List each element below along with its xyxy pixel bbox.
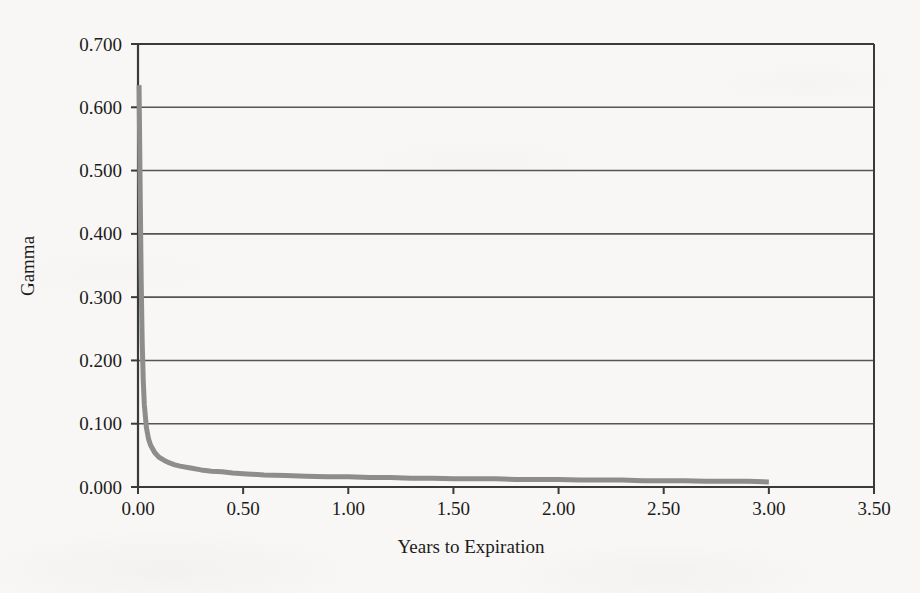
y-tick-label: 0.500 <box>79 160 122 181</box>
gridlines <box>138 107 874 423</box>
x-tick-label: 3.00 <box>752 498 785 519</box>
gamma-series-line <box>139 85 769 482</box>
x-tick-label: 0.00 <box>121 498 154 519</box>
x-axis-tick-labels: 0.000.501.001.502.002.503.003.50 <box>121 498 890 519</box>
x-tick-label: 2.00 <box>542 498 575 519</box>
x-tick-label: 3.50 <box>857 498 890 519</box>
x-tick-label: 2.50 <box>647 498 680 519</box>
plot-frame <box>138 44 874 487</box>
y-tick-label: 0.200 <box>79 350 122 371</box>
y-axis-title: Gamma <box>17 235 38 296</box>
x-axis-title: Years to Expiration <box>398 536 545 557</box>
y-tick-label: 0.300 <box>79 287 122 308</box>
y-tick-label: 0.000 <box>79 477 122 498</box>
y-tick-label: 0.100 <box>79 413 122 434</box>
x-tick-label: 1.50 <box>437 498 470 519</box>
series-line-gamma <box>139 85 769 482</box>
y-tick-label: 0.400 <box>79 223 122 244</box>
y-tick-label: 0.600 <box>79 97 122 118</box>
x-tick-label: 1.00 <box>332 498 365 519</box>
gamma-line-chart: 0.0000.1000.2000.3000.4000.5000.6000.700… <box>0 0 920 593</box>
y-axis-tick-labels: 0.0000.1000.2000.3000.4000.5000.6000.700 <box>79 34 122 498</box>
chart-page: 0.0000.1000.2000.3000.4000.5000.6000.700… <box>0 0 920 593</box>
y-tick-label: 0.700 <box>79 34 122 55</box>
x-tick-label: 0.50 <box>227 498 260 519</box>
